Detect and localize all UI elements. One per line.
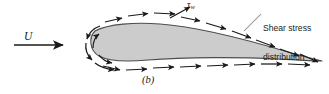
figure-airfoil-shear-stress: U τw Shear stress distribution (b) bbox=[0, 0, 329, 94]
shear-stress-distribution-annotation: Shear stress distribution bbox=[263, 5, 311, 82]
wall-shear-stress-label: τw bbox=[187, 0, 195, 11]
shear-stress-leader-line bbox=[244, 14, 261, 31]
annotation-line-1: Shear stress bbox=[263, 24, 311, 34]
wall-shear-subscript: w bbox=[190, 3, 194, 10]
subfigure-label: (b) bbox=[142, 74, 154, 86]
annotation-line-2: distribution bbox=[263, 53, 311, 63]
freestream-velocity-label: U bbox=[24, 30, 32, 43]
